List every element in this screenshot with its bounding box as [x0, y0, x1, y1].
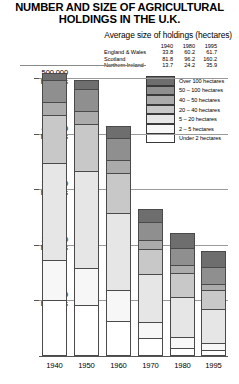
bar-segment — [106, 321, 131, 356]
bar-1980 — [170, 233, 195, 356]
y-axis-tick — [34, 245, 39, 246]
x-axis-label: 1995 — [194, 361, 234, 370]
bar-segment — [42, 73, 67, 81]
bar-segment — [42, 260, 67, 300]
bar-1960 — [106, 126, 131, 356]
bar-segment — [106, 126, 131, 138]
bar-segment — [42, 80, 67, 101]
bar-segment — [138, 274, 163, 322]
bar-segment — [170, 337, 195, 348]
bar-segment — [42, 102, 67, 115]
bar-segment — [201, 350, 226, 356]
bar-segment — [74, 124, 99, 171]
chart-container: NUMBER AND SIZE OF AGRICULTURAL HOLDINGS… — [0, 0, 239, 384]
bar-segment — [201, 343, 226, 350]
y-axis-tick — [34, 78, 39, 79]
bar-segment — [201, 267, 226, 284]
bar-segment — [106, 138, 131, 161]
bar-segment — [74, 305, 99, 356]
bar-1970 — [138, 209, 163, 356]
bar-segment — [170, 273, 195, 296]
bar-segment — [170, 233, 195, 247]
bar-segment — [74, 80, 99, 89]
bar-segment — [201, 284, 226, 291]
bar-segment — [106, 160, 131, 172]
bar-1940 — [42, 73, 67, 356]
bar-segment — [42, 300, 67, 356]
bar-segment — [170, 265, 195, 273]
bar-segment — [201, 251, 226, 267]
bar-segment — [138, 322, 163, 339]
bar-segment — [74, 89, 99, 111]
bar-segment — [201, 290, 226, 308]
y-axis-tick — [34, 189, 39, 190]
bar-segment — [201, 309, 226, 343]
bar-segment — [74, 111, 99, 124]
bar-segment — [170, 248, 195, 266]
bar-segment — [138, 222, 163, 240]
bar-segment — [74, 171, 99, 268]
bar-segment — [138, 209, 163, 222]
bar-segment — [106, 290, 131, 321]
plot-area: 500 000holdings400 000holdings300 000hol… — [0, 0, 239, 384]
bar-segment — [138, 240, 163, 248]
bar-segment — [170, 348, 195, 356]
bar-segment — [138, 338, 163, 356]
bar-1995 — [201, 251, 226, 356]
bar-segment — [106, 213, 131, 291]
bar-segment — [138, 249, 163, 274]
bar-segment — [106, 173, 131, 213]
bar-segment — [74, 268, 99, 305]
bar-segment — [170, 297, 195, 338]
bar-1950 — [74, 80, 99, 356]
y-axis-tick — [34, 134, 39, 135]
bar-segment — [42, 163, 67, 261]
bar-segment — [42, 115, 67, 163]
x-axis — [39, 356, 228, 357]
y-axis-tick — [34, 300, 39, 301]
